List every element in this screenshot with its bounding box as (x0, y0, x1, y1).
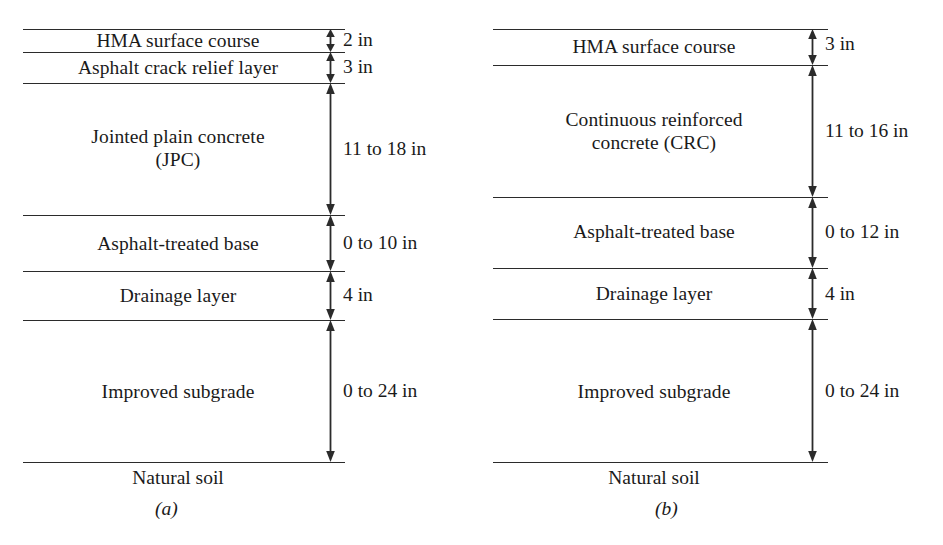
dim-arrow-b-4 (804, 319, 821, 462)
layer-label-b-0: HMA surface course (493, 33, 815, 61)
dim-label-b-2: 0 to 12 in (825, 221, 899, 243)
dim-label-b-3: 4 in (825, 283, 855, 305)
dim-arrow-a-2 (322, 83, 339, 215)
layer-label-b-3: Drainage layer (493, 283, 815, 305)
rule-b-hma-bottom (493, 65, 828, 66)
rule-a-atb-bottom (23, 271, 345, 272)
dim-arrow-b-0 (804, 29, 821, 65)
panel-caption-a: (a) (155, 498, 178, 520)
rule-b-atb-bottom (493, 268, 828, 269)
rule-a-relief-bottom (23, 83, 345, 84)
dim-label-a-0: 2 in (343, 29, 373, 51)
dim-label-a-2: 11 to 18 in (343, 138, 426, 160)
rule-b-crc-bottom (493, 197, 828, 198)
rule-a-subgrade-bottom (23, 462, 345, 463)
dim-label-a-1: 3 in (343, 56, 373, 78)
rule-a-drain-bottom (23, 320, 345, 321)
dim-arrow-b-3 (804, 268, 821, 319)
rule-a-jpc-bottom (23, 215, 345, 216)
layer-label-b-4: Improved subgrade (493, 381, 815, 403)
figure-pavement-cross-sections: HMA surface course Asphalt crack relief … (0, 0, 943, 545)
foundation-label-b: Natural soil (493, 467, 815, 489)
layer-label-b-1: Continuous reinforced concrete (CRC) (493, 108, 815, 154)
dim-label-a-5: 0 to 24 in (343, 380, 417, 402)
rule-b-top (493, 29, 828, 30)
dim-label-a-4: 4 in (343, 284, 373, 306)
dim-arrow-a-5 (322, 320, 339, 462)
layer-label-a-3: Asphalt-treated base (23, 233, 333, 255)
layer-label-a-0: HMA surface course (23, 30, 333, 52)
dim-arrow-a-3 (322, 215, 339, 271)
layer-label-a-2: Jointed plain concrete (JPC) (23, 125, 333, 171)
dim-arrow-a-0 (322, 29, 339, 52)
dim-arrow-a-4 (322, 271, 339, 320)
panel-a: HMA surface course Asphalt crack relief … (0, 0, 471, 545)
dim-arrow-b-1 (804, 65, 821, 197)
layer-label-b-2: Asphalt-treated base (493, 221, 815, 243)
panel-b: HMA surface course Continuous reinforced… (471, 0, 943, 545)
rule-a-hma-bottom (23, 52, 345, 53)
layer-label-a-5: Improved subgrade (23, 381, 333, 403)
panel-caption-b: (b) (655, 498, 678, 520)
foundation-label-a: Natural soil (23, 467, 333, 489)
dim-label-b-4: 0 to 24 in (825, 380, 899, 402)
dim-arrow-a-1 (322, 52, 339, 83)
dim-label-a-3: 0 to 10 in (343, 232, 417, 254)
dim-arrow-b-2 (804, 197, 821, 268)
rule-b-subgrade-bottom (493, 462, 828, 463)
rule-b-drain-bottom (493, 319, 828, 320)
layer-label-a-4: Drainage layer (23, 285, 333, 307)
dim-label-b-1: 11 to 16 in (825, 120, 908, 142)
layer-label-a-1: Asphalt crack relief layer (23, 54, 333, 82)
dim-label-b-0: 3 in (825, 33, 855, 55)
